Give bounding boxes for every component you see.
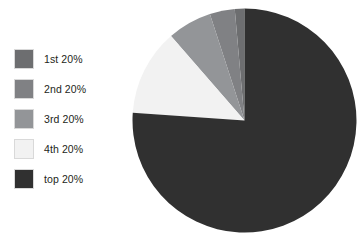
legend-label-4th-20: 4th 20% [44,144,83,155]
pie-chart-figure: 1st 20% 2nd 20% 3rd 20% 4th 20% top 20% [0,0,363,240]
chart-legend: 1st 20% 2nd 20% 3rd 20% 4th 20% top 20% [14,44,124,194]
legend-item-top-20[interactable]: top 20% [14,164,124,194]
pie-plot-area [132,8,357,233]
legend-label-1st-20: 1st 20% [44,54,83,65]
legend-label-top-20: top 20% [44,174,83,185]
legend-item-2nd-20[interactable]: 2nd 20% [14,74,124,104]
legend-swatch-top-20 [14,169,34,189]
pie-svg [132,8,357,233]
legend-swatch-3rd-20 [14,109,34,129]
legend-label-3rd-20: 3rd 20% [44,114,84,125]
legend-swatch-2nd-20 [14,79,34,99]
legend-item-1st-20[interactable]: 1st 20% [14,44,124,74]
legend-item-3rd-20[interactable]: 3rd 20% [14,104,124,134]
legend-item-4th-20[interactable]: 4th 20% [14,134,124,164]
legend-swatch-1st-20 [14,49,34,69]
legend-label-2nd-20: 2nd 20% [44,84,86,95]
legend-swatch-4th-20 [14,139,34,159]
